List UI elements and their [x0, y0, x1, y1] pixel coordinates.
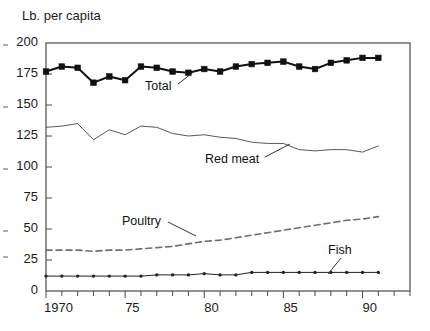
series-marker [107, 74, 113, 80]
chart-figure: Lb. per capita 0255075100125150175200197… [0, 0, 430, 331]
series-marker [298, 271, 301, 274]
series-marker [75, 65, 81, 71]
series-marker [361, 271, 364, 274]
series-marker [92, 274, 95, 277]
series-annotation-poultry: Poultry [122, 214, 161, 228]
series-marker [108, 274, 111, 277]
series-marker [44, 274, 47, 277]
y-axis-tick-label: 25 [0, 251, 38, 266]
series-marker [281, 59, 287, 65]
annotation-leader-line [265, 144, 290, 157]
series-marker [218, 273, 221, 276]
x-axis-tick-label: 80 [204, 300, 218, 315]
series-annotation-red-meat: Red meat [205, 152, 259, 166]
series-marker [312, 66, 318, 72]
series-marker [296, 64, 302, 70]
series-marker [313, 271, 316, 274]
series-marker [376, 55, 382, 61]
series-marker [123, 274, 126, 277]
y-axis-tick-label: 175 [0, 65, 38, 80]
series-marker [344, 58, 350, 64]
margin-register-mark [3, 168, 8, 170]
series-marker [122, 77, 128, 83]
y-axis-tick-label: 100 [0, 158, 38, 173]
series-marker [187, 273, 190, 276]
y-axis-tick-label: 150 [0, 96, 38, 111]
series-marker [60, 274, 63, 277]
series-marker [233, 64, 239, 70]
x-axis-tick-label: 85 [283, 300, 297, 315]
series-marker [139, 274, 142, 277]
annotation-leader-line [168, 222, 196, 236]
series-marker [266, 271, 269, 274]
y-axis-tick-label: 50 [0, 220, 38, 235]
series-marker [250, 271, 253, 274]
series-annotation-total: Total [145, 79, 171, 93]
series-marker [171, 273, 174, 276]
y-axis-tick-label: 75 [0, 189, 38, 204]
y-axis-tick-label: 0 [0, 282, 38, 297]
series-marker [282, 271, 285, 274]
series-marker [328, 60, 334, 66]
margin-register-mark [3, 106, 8, 108]
series-marker [360, 55, 366, 61]
margin-register-mark [3, 230, 8, 232]
x-axis-tick-label: 1970 [44, 300, 73, 315]
y-axis-tick-label: 125 [0, 127, 38, 142]
series-marker [138, 64, 144, 70]
series-marker [43, 69, 49, 75]
series-marker [345, 271, 348, 274]
x-axis-tick-label: 75 [125, 300, 139, 315]
y-axis-tick-label: 200 [0, 34, 38, 49]
series-marker [59, 64, 65, 70]
annotation-leader-line [328, 258, 341, 274]
x-axis-tick-label: 90 [363, 300, 377, 315]
series-marker [155, 273, 158, 276]
series-marker [234, 273, 237, 276]
series-annotation-fish: Fish [328, 243, 352, 257]
series-marker [249, 61, 255, 67]
series-marker [91, 80, 97, 86]
series-marker [217, 69, 223, 75]
series-marker [154, 65, 160, 71]
series-marker [265, 60, 271, 66]
series-marker [170, 69, 176, 75]
series-marker [203, 272, 206, 275]
series-marker [201, 66, 207, 72]
series-marker [76, 274, 79, 277]
series-marker [377, 271, 380, 274]
margin-register-mark [3, 44, 8, 46]
series-line-red-meat [46, 124, 378, 153]
margin-register-mark [3, 256, 8, 258]
